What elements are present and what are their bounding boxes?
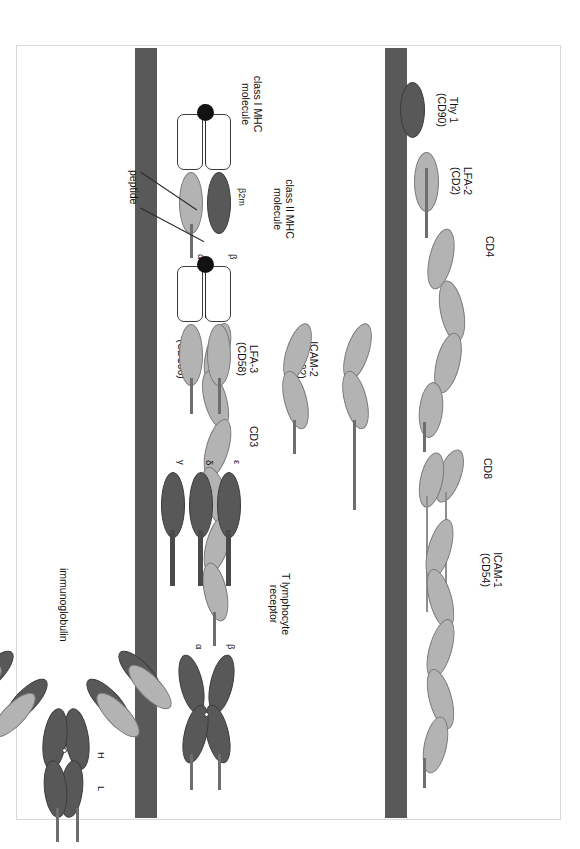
- molecule-thy1-cd: (CD90): [436, 93, 448, 127]
- ig-heavy-label: H: [95, 752, 107, 759]
- molecule-thy1-name: Thy 1: [448, 96, 460, 122]
- cd3-epsilon-tail: [226, 530, 231, 586]
- tcr-name: T lymphocyte: [280, 572, 292, 634]
- ig-heavy-arm2-d2: [0, 644, 20, 701]
- mhc1-peptide-dot: [197, 104, 214, 121]
- molecule-lfa2-cd: (CD2): [450, 167, 462, 195]
- molecule-lfa2-name: LFA-2: [462, 166, 474, 194]
- molecule-cd8-label: CD8: [481, 458, 493, 479]
- peptide-label: peptide: [127, 170, 139, 204]
- tcr-beta-label: β: [225, 644, 237, 649]
- cd3-delta-label: δ: [203, 460, 215, 465]
- mhc2-beta2-domain: [207, 324, 231, 386]
- cd3-gamma-domain: [161, 472, 185, 538]
- mhc2-beta-label: β: [227, 254, 239, 259]
- cd3-epsilon-label: ε: [231, 460, 243, 464]
- molecule-icam1-name: ICAM-1: [492, 552, 504, 588]
- mhc2-peptide-dot: [197, 256, 214, 273]
- cd3-gamma-tail: [170, 530, 175, 586]
- mhc2-peptide-groove: [204, 272, 205, 318]
- mhc2-name: class II MHC: [284, 179, 296, 239]
- tcr-name-line2: receptor: [268, 584, 280, 623]
- mhc1-alpha1-box: [205, 114, 231, 170]
- molecule-cd4-label: CD4: [483, 236, 495, 257]
- cd3-epsilon-domain: [217, 472, 241, 538]
- icam2-domain-1: [337, 319, 377, 383]
- tcr-disulfide-nub: [204, 712, 209, 717]
- ig-stalk-lower: [56, 808, 59, 842]
- molecule-lfa3-label: LFA-3(CD58): [236, 316, 259, 402]
- tcr-label: T lymphocytereceptor: [268, 552, 291, 656]
- mhc2-name-line2: molecule: [272, 187, 284, 229]
- vcam1-stalk: [213, 612, 216, 646]
- mhc1-b2m-domain: [207, 172, 231, 234]
- mhc2-label: class II MHCmolecule: [272, 160, 295, 258]
- mhc2-alpha2-domain: [179, 324, 203, 386]
- cd3-name: CD3: [248, 426, 260, 447]
- cd4-stalk: [423, 422, 426, 452]
- diagram-canvas: Thy 1(CD90) LFA-2(CD2) CD4 CD8: [19, 48, 559, 818]
- mhc2-alpha1-box: [177, 266, 203, 322]
- molecule-lfa3-cd: (CD58): [236, 342, 248, 376]
- ig-light-arm2-d1: [0, 686, 42, 743]
- molecule-lfa2-label: LFA-2(CD2): [450, 140, 473, 222]
- lfa2-stalk: [425, 168, 428, 238]
- ig-name: immunoglobulin: [58, 568, 70, 642]
- mhc2-stalk-alpha: [190, 378, 193, 414]
- ig-stalk-upper: [76, 808, 79, 842]
- molecule-icam1-cd: (CD54): [480, 553, 492, 587]
- mhc1-name: class I MHC: [252, 75, 264, 132]
- mhc2-stalk-beta: [218, 378, 221, 414]
- figure-frame: Thy 1(CD90) LFA-2(CD2) CD4 CD8: [16, 45, 561, 820]
- cd3-delta-tail: [198, 530, 203, 586]
- mhc1-name-line2: molecule: [240, 82, 252, 124]
- tcr-stalk-alpha: [190, 754, 193, 790]
- icam1-stalk: [423, 758, 426, 788]
- mhc1-peptide-groove: [204, 120, 205, 164]
- molecule-cd8-name: CD8: [482, 458, 494, 479]
- icam2-stalk: [353, 420, 356, 510]
- mhc1-alpha2-box: [177, 114, 203, 170]
- figure-page: Thy 1(CD90) LFA-2(CD2) CD4 CD8: [0, 0, 580, 849]
- mhc1-stalk: [190, 224, 193, 258]
- mhc1-b2m-label: β2m: [237, 188, 247, 206]
- tcr-stalk-beta: [218, 754, 221, 790]
- tcr-alpha-label: α: [193, 644, 205, 650]
- cd4-domain-4: [416, 380, 446, 438]
- ig-label: immunoglobulin: [57, 568, 69, 642]
- molecule-cd3-label: CD3: [247, 426, 259, 447]
- mhc2-beta1-box: [205, 266, 231, 322]
- lfa3-stalk: [293, 420, 296, 454]
- thy1-domain-1: [400, 82, 425, 138]
- molecule-thy1-label: Thy 1(CD90): [436, 70, 459, 150]
- molecule-icam1-label: ICAM-1(CD54): [480, 528, 503, 612]
- molecule-cd4-name: CD4: [484, 236, 496, 257]
- ig-light-label: L: [95, 786, 107, 791]
- mhc1-label: class I MHCmolecule: [240, 56, 263, 152]
- cd3-gamma-label: γ: [175, 460, 187, 465]
- cd3-delta-domain: [189, 472, 213, 538]
- ig-hinge-nub: [62, 748, 67, 753]
- molecule-lfa3-name: LFA-3: [248, 344, 260, 372]
- membrane-upper: [385, 48, 407, 818]
